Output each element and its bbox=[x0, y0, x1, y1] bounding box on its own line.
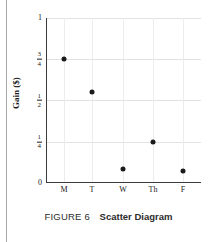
fraction-three-quarters: 3 4 bbox=[37, 51, 43, 68]
x-tick-label-T: T bbox=[90, 186, 95, 194]
y-tick-label-3-4: 3 4 bbox=[37, 51, 43, 68]
gridline-x-W bbox=[123, 18, 124, 182]
fraction-denominator: 4 bbox=[37, 143, 43, 150]
gridline-x-F bbox=[183, 18, 184, 182]
x-tick-label-Th: Th bbox=[149, 186, 158, 194]
y-tick-label-1: 1 bbox=[38, 14, 42, 22]
gridline-x-Th bbox=[153, 18, 154, 182]
gridline-x-T bbox=[92, 18, 93, 182]
figure-caption-label: FIGURE 6 bbox=[45, 211, 90, 222]
fraction-numerator: 1 bbox=[37, 133, 43, 140]
y-axis-title: Gain ($) bbox=[11, 63, 21, 123]
fraction-one-quarter: 1 4 bbox=[37, 133, 43, 150]
fraction-denominator: 4 bbox=[37, 60, 43, 67]
x-axis-line bbox=[46, 182, 201, 183]
y-tick-label-1-2: 1 2 bbox=[37, 92, 43, 109]
y-axis-line bbox=[46, 18, 47, 183]
data-point-Th bbox=[151, 140, 156, 145]
data-point-T bbox=[90, 90, 95, 95]
y-axis-tick-labels: 1 3 4 1 2 1 4 0 bbox=[26, 18, 42, 183]
data-point-F bbox=[181, 169, 186, 174]
y-tick-label-1-4: 1 4 bbox=[37, 133, 43, 150]
fraction-denominator: 2 bbox=[37, 102, 43, 109]
x-tick-label-M: M bbox=[60, 186, 67, 194]
figure-caption-title: Scatter Diagram bbox=[100, 211, 173, 222]
gridline-x-M bbox=[64, 18, 65, 182]
y-tick-label-0: 0 bbox=[38, 179, 42, 187]
scatter-plot-area bbox=[46, 18, 201, 183]
fraction-one-half: 1 2 bbox=[37, 92, 43, 109]
figure-page: Gain ($) 1 3 4 1 2 1 4 bbox=[0, 0, 217, 242]
x-tick-label-F: F bbox=[181, 186, 185, 194]
fraction-numerator: 1 bbox=[37, 92, 43, 99]
x-tick-label-W: W bbox=[119, 186, 127, 194]
page-left-rule bbox=[6, 0, 7, 242]
figure-caption: FIGURE 6 Scatter Diagram bbox=[0, 211, 217, 222]
data-point-W bbox=[121, 167, 126, 172]
x-axis-tick-labels: M T W Th F bbox=[46, 186, 201, 200]
data-point-M bbox=[62, 57, 67, 62]
fraction-numerator: 3 bbox=[37, 51, 43, 58]
